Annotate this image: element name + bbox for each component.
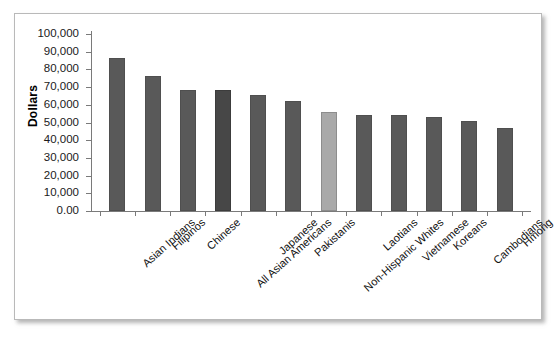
y-tick-label: 30,000 bbox=[44, 151, 79, 164]
y-tick-label: 40,000 bbox=[44, 133, 79, 146]
x-tick bbox=[241, 211, 242, 216]
bar-pakistanis bbox=[285, 101, 301, 211]
bar-filipinos bbox=[145, 76, 161, 211]
bar-koreans bbox=[426, 117, 442, 211]
y-tick: 30,000 bbox=[86, 158, 91, 159]
category-label-chinese: Chinese bbox=[204, 216, 242, 252]
y-tick: 100,000 bbox=[86, 34, 91, 35]
y-tick-label: 0.00 bbox=[57, 204, 79, 217]
bar-vietnamese bbox=[391, 115, 407, 211]
y-tick: 70,000 bbox=[86, 87, 91, 88]
y-tick-label: 60,000 bbox=[44, 98, 79, 111]
x-tick bbox=[452, 211, 453, 216]
x-tick bbox=[205, 211, 206, 216]
x-tick bbox=[135, 211, 136, 216]
y-tick-label: 10,000 bbox=[44, 186, 79, 199]
y-tick-label: 20,000 bbox=[44, 169, 79, 182]
chart-figure-frame: Dollars 100,00090,00080,00070,00060,0005… bbox=[14, 13, 542, 320]
y-tick: 50,000 bbox=[86, 123, 91, 124]
x-tick bbox=[346, 211, 347, 216]
y-axis-title: Dollars bbox=[26, 91, 40, 109]
y-tick-label: 50,000 bbox=[44, 116, 79, 129]
y-axis-line bbox=[91, 31, 92, 212]
bar-cambodians bbox=[461, 121, 477, 211]
y-axis-title-label: Dollars bbox=[26, 109, 40, 127]
y-tick: 40,000 bbox=[86, 140, 91, 141]
bar-laotians bbox=[356, 115, 372, 211]
y-tick: 10,000 bbox=[86, 193, 91, 194]
bar-hmong bbox=[497, 128, 513, 211]
y-tick: 90,000 bbox=[86, 52, 91, 53]
y-tick: 80,000 bbox=[86, 69, 91, 70]
bar-chinese bbox=[180, 90, 196, 211]
bar-asian-indians bbox=[109, 58, 125, 211]
x-tick bbox=[170, 211, 171, 216]
x-tick bbox=[417, 211, 418, 216]
bar-japanese bbox=[250, 95, 266, 211]
y-tick-label: 90,000 bbox=[44, 45, 79, 58]
x-tick bbox=[487, 211, 488, 216]
y-tick: 60,000 bbox=[86, 105, 91, 106]
y-tick: 0.00 bbox=[86, 211, 91, 212]
x-tick bbox=[100, 211, 101, 216]
x-tick bbox=[381, 211, 382, 216]
y-tick: 20,000 bbox=[86, 176, 91, 177]
y-tick-label: 70,000 bbox=[44, 80, 79, 93]
plot-area: 100,00090,00080,00070,00060,00050,00040,… bbox=[91, 34, 531, 211]
x-tick bbox=[276, 211, 277, 216]
bar-non-hispanic-whites bbox=[321, 112, 337, 211]
y-tick-label: 80,000 bbox=[44, 62, 79, 75]
y-tick-label: 100,000 bbox=[37, 27, 79, 40]
x-tick bbox=[522, 211, 523, 216]
bar-all-asian-americans bbox=[215, 90, 231, 211]
